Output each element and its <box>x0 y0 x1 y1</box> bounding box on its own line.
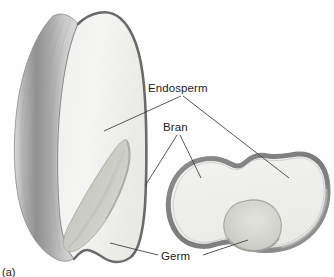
kernel-anatomy-diagram: Endosperm Bran Germ (a) <box>0 0 334 277</box>
label-germ: Germ <box>161 250 190 262</box>
label-endosperm: Endosperm <box>148 82 208 94</box>
figure-caption: (a) <box>2 266 15 277</box>
wheat-kernel-figure: Endosperm Bran Germ (a) <box>0 0 334 277</box>
label-bran: Bran <box>163 121 188 133</box>
whole-kernel-group <box>14 12 146 262</box>
leader-bran-left <box>145 135 177 186</box>
cross-section-group <box>168 154 328 251</box>
